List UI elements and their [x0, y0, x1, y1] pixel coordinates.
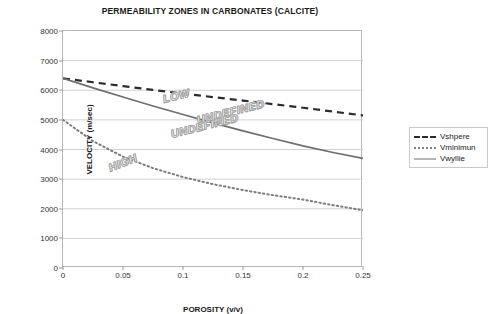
series-lines — [63, 78, 363, 210]
solid-line-icon — [413, 154, 437, 163]
y-tick-mark — [59, 238, 63, 239]
y-tick-label: 7000 — [40, 56, 58, 65]
y-tick-mark — [59, 60, 63, 61]
series-line-vminimun — [63, 120, 363, 210]
chart-legend: Vshpere Vminimun Vwyllie — [409, 127, 488, 168]
plot-canvas — [63, 31, 363, 268]
x-tick-mark — [183, 266, 184, 270]
legend-item-vshpere[interactable]: Vshpere — [413, 131, 484, 142]
x-tick-label: 0.1 — [177, 271, 188, 280]
x-tick-label: 0.25 — [355, 271, 371, 280]
y-tick-mark — [59, 31, 63, 32]
y-tick-label: 8000 — [40, 27, 58, 36]
y-tick-label: 2000 — [40, 204, 58, 213]
y-tick-label: 3000 — [40, 175, 58, 184]
legend-item-vminimun[interactable]: Vminimun — [413, 142, 484, 153]
x-tick-mark — [303, 266, 304, 270]
dashed-line-icon — [413, 132, 437, 141]
x-tick-mark — [63, 266, 64, 270]
y-tick-mark — [59, 208, 63, 209]
y-tick-label: 6000 — [40, 86, 58, 95]
dotted-line-icon — [413, 143, 437, 152]
x-axis-title: POROSITY (v/v) — [63, 305, 363, 314]
x-tick-label: 0.2 — [297, 271, 308, 280]
y-tick-mark — [59, 90, 63, 91]
y-tick-mark — [59, 179, 63, 180]
legend-label: Vwyllie — [440, 153, 465, 164]
y-tick-label: 4000 — [40, 145, 58, 154]
legend-item-vwyllie[interactable]: Vwyllie — [413, 153, 484, 164]
x-tick-mark — [363, 266, 364, 270]
y-axis-title: VELOCITY (m/sec) — [85, 70, 94, 210]
x-tick-mark — [123, 266, 124, 270]
x-tick-label: 0.15 — [235, 271, 251, 280]
x-tick-mark — [243, 266, 244, 270]
series-line-vshpere — [63, 78, 363, 115]
legend-label: Vminimun — [440, 142, 476, 153]
x-tick-label: 0 — [61, 271, 65, 280]
y-tick-label: 5000 — [40, 115, 58, 124]
y-tick-label: 1000 — [40, 234, 58, 243]
plot-area: 010002000300040005000600070008000 00.050… — [62, 30, 362, 267]
chart-title: PERMEABILITY ZONES IN CARBONATES (CALCIT… — [0, 6, 420, 16]
y-tick-mark — [59, 149, 63, 150]
legend-label: Vshpere — [440, 131, 470, 142]
y-tick-label: 0 — [54, 264, 58, 273]
x-tick-label: 0.05 — [115, 271, 131, 280]
y-tick-mark — [59, 119, 63, 120]
